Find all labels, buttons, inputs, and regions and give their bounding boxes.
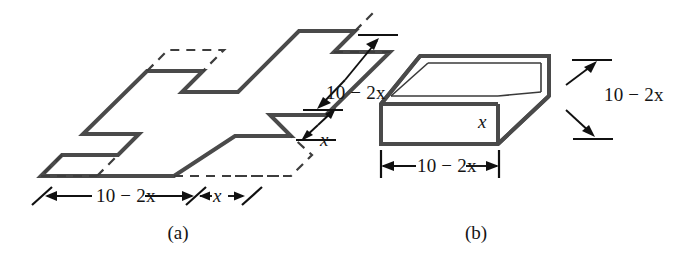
figure-container: 10 − 2x x 10 − 2x x 10 − 2x 10 − 2x x (a… <box>0 0 689 258</box>
panel-a-right-short-label: x <box>320 130 329 149</box>
panel-b-height-label: x <box>478 112 487 131</box>
panel-a-bottom-short-label: x <box>213 186 222 205</box>
panel-a-right-long-label: 10 − 2x <box>326 83 386 102</box>
panel-a-caption: (a) <box>148 222 208 244</box>
panel-a-bottom-long-label: 10 − 2x <box>96 186 156 205</box>
panel-b-bottom-label: 10 − 2x <box>417 156 477 175</box>
box-inner-floor <box>381 86 567 96</box>
panel-b-right-label: 10 − 2x <box>604 85 664 104</box>
panel-b-caption: (b) <box>446 222 506 244</box>
panel-b-drawing <box>0 0 689 258</box>
